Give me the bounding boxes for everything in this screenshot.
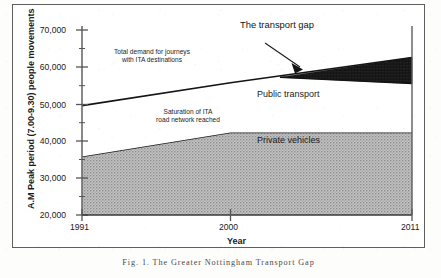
y-axis-title: A.M Peak period (7.00-9.30) people movem… [26, 19, 36, 209]
transport-gap-label: The transport gap [240, 19, 314, 30]
stacked-area-chart [12, 4, 425, 252]
figure-page: 70,000 60,000 50,000 40,000 30,000 20,00… [0, 0, 441, 278]
saturation-note-line2: road network reached [130, 116, 246, 124]
total-demand-note-line2: with ITA destinations [89, 56, 215, 64]
x-axis-title: Year [227, 236, 246, 246]
transport-gap-arrow-icon [265, 43, 303, 74]
x-tick-label: 2000 [219, 222, 238, 232]
saturation-note: Saturation of ITA road network reached [130, 108, 246, 125]
total-demand-note-line1: Total demand for journeys [89, 48, 215, 56]
saturation-note-line1: Saturation of ITA [130, 108, 246, 116]
y-tick-label: 20,000 [20, 210, 66, 220]
x-tick-label: 1991 [70, 222, 89, 232]
x-tick-label: 2011 [401, 222, 419, 232]
total-demand-note: Total demand for journeys with ITA desti… [89, 48, 215, 65]
figure-caption: Fig. 1. The Greater Nottingham Transport… [12, 258, 425, 276]
series-label-private-vehicles: Private vehicles [257, 135, 320, 145]
series-label-public-transport: Public transport [257, 89, 320, 99]
chart-figure: 70,000 60,000 50,000 40,000 30,000 20,00… [12, 4, 425, 278]
